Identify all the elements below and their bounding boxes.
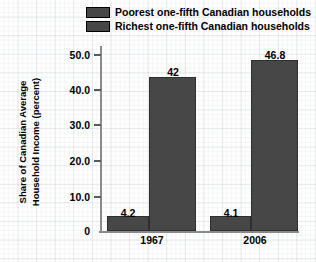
chart-legend: Poorest one-fifth Canadian households Ri… (86, 6, 311, 33)
bar-2006-richest (251, 60, 298, 231)
y-tick-label-10: 10.0 (44, 191, 90, 203)
x-axis-label-2006: 2006 (243, 234, 266, 246)
x-axis-line (99, 231, 299, 233)
bar-value-1967-richest: 42 (167, 66, 179, 78)
y-axis-tick-labels: 50.0 40.0 30.0 20.0 10.0 0 (44, 0, 90, 262)
bar-value-1967-poorest: 4.2 (121, 207, 136, 219)
y-axis-title-line2: Household Income (percent) (29, 78, 40, 206)
bar-value-2006-poorest: 4.1 (224, 207, 239, 219)
bar-value-2006-richest: 46.8 (265, 49, 285, 61)
y-tick-label-50: 50.0 (44, 49, 90, 61)
legend-item-richest: Richest one-fifth Canadian households (86, 20, 311, 33)
y-tick-label-0: 0 (44, 225, 90, 237)
bar-1967-richest (149, 77, 196, 231)
y-tick-label-30: 30.0 (44, 119, 90, 131)
legend-item-poorest: Poorest one-fifth Canadian households (86, 6, 311, 19)
y-tick-label-20: 20.0 (44, 155, 90, 167)
x-axis-label-1967: 1967 (140, 234, 163, 246)
y-tick-label-40: 40.0 (44, 84, 90, 96)
legend-label-richest: Richest one-fifth Canadian households (115, 21, 310, 32)
legend-label-poorest: Poorest one-fifth Canadian households (115, 7, 311, 18)
y-axis-title: Share of Canadian Average Household Inco… (12, 44, 46, 240)
bar-chart: Poorest one-fifth Canadian households Ri… (0, 0, 316, 262)
y-axis-title-line1: Share of Canadian Average (17, 81, 28, 204)
plot-area (100, 48, 298, 231)
